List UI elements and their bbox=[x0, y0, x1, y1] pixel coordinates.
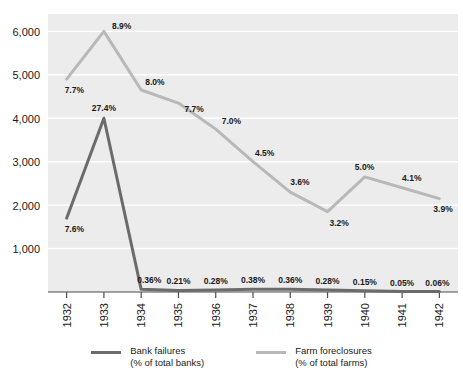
y-axis-label-1000: 1,000 bbox=[12, 243, 40, 255]
data-label-bank-failures-1941: 0.05% bbox=[390, 278, 415, 288]
legend-label-farm-foreclosures-name: Farm foreclosures bbox=[295, 345, 372, 357]
x-axis-label-1933: 1933 bbox=[98, 303, 110, 327]
data-label-farm-foreclosures-1933: 8.9% bbox=[112, 21, 132, 31]
legend-label-farm-foreclosures-sublabel: (% of total farms) bbox=[295, 357, 372, 369]
data-label-farm-foreclosures-1935: 7.7% bbox=[184, 104, 204, 114]
data-label-bank-failures-1932: 7.6% bbox=[65, 224, 85, 234]
data-label-farm-foreclosures-1942: 3.9% bbox=[433, 204, 453, 214]
legend-label-bank-failures: Bank failures (% of total banks) bbox=[130, 345, 204, 368]
y-axis-label-3000: 3,000 bbox=[12, 156, 40, 168]
x-axis-label-1940: 1940 bbox=[359, 303, 371, 327]
data-label-farm-foreclosures-1941: 4.1% bbox=[402, 173, 422, 183]
plot-area-background bbox=[48, 14, 458, 292]
data-label-bank-failures-1936: 0.28% bbox=[204, 276, 229, 286]
data-label-bank-failures-1933: 27.4% bbox=[92, 103, 117, 113]
data-label-farm-foreclosures-1939: 3.2% bbox=[330, 218, 350, 228]
legend-swatch-bank-failures bbox=[91, 351, 121, 354]
chart-legend: Bank failures (% of total banks) Farm fo… bbox=[0, 345, 463, 368]
y-axis-label-2000: 2,000 bbox=[12, 200, 40, 212]
y-axis-label-6000: 6,000 bbox=[12, 26, 40, 38]
data-label-bank-failures-1934: 0.36% bbox=[137, 275, 162, 285]
legend-label-bank-failures-name: Bank failures bbox=[130, 345, 204, 357]
x-axis-label-1937: 1937 bbox=[247, 303, 259, 327]
data-label-farm-foreclosures-1938: 3.6% bbox=[290, 177, 310, 187]
legend-item-bank-failures: Bank failures (% of total banks) bbox=[91, 345, 204, 368]
legend-item-farm-foreclosures: Farm foreclosures (% of total farms) bbox=[256, 345, 372, 368]
y-axis-label-5000: 5,000 bbox=[12, 69, 40, 81]
data-label-bank-failures-1938: 0.36% bbox=[278, 275, 303, 285]
x-axis-label-1942: 1942 bbox=[433, 303, 445, 327]
legend-label-bank-failures-sublabel: (% of total banks) bbox=[130, 357, 204, 369]
y-axis-label-4000: 4,000 bbox=[12, 113, 40, 125]
line-chart: 1,0002,0003,0004,0005,0006,0001932193319… bbox=[0, 0, 463, 376]
x-axis-label-1936: 1936 bbox=[210, 303, 222, 327]
data-label-farm-foreclosures-1937: 4.5% bbox=[255, 148, 275, 158]
data-label-farm-foreclosures-1934: 8.0% bbox=[145, 77, 165, 87]
data-label-farm-foreclosures-1936: 7.0% bbox=[222, 116, 242, 126]
chart-container: 1,0002,0003,0004,0005,0006,0001932193319… bbox=[0, 0, 463, 376]
x-axis-label-1941: 1941 bbox=[396, 303, 408, 327]
data-label-bank-failures-1935: 0.21% bbox=[166, 276, 191, 286]
x-axis-label-1934: 1934 bbox=[135, 303, 147, 327]
data-label-bank-failures-1937: 0.38% bbox=[241, 275, 266, 285]
x-axis-label-1935: 1935 bbox=[172, 303, 184, 327]
data-label-bank-failures-1942: 0.06% bbox=[425, 278, 450, 288]
x-axis-label-1932: 1932 bbox=[61, 303, 73, 327]
data-label-bank-failures-1940: 0.15% bbox=[353, 277, 378, 287]
x-axis-label-1939: 1939 bbox=[322, 303, 334, 327]
x-axis-label-1938: 1938 bbox=[284, 303, 296, 327]
data-label-farm-foreclosures-1940: 5.0% bbox=[355, 162, 375, 172]
legend-label-farm-foreclosures: Farm foreclosures (% of total farms) bbox=[295, 345, 372, 368]
data-label-bank-failures-1939: 0.28% bbox=[316, 276, 341, 286]
data-label-farm-foreclosures-1932: 7.7% bbox=[65, 85, 85, 95]
legend-swatch-farm-foreclosures bbox=[256, 351, 286, 354]
